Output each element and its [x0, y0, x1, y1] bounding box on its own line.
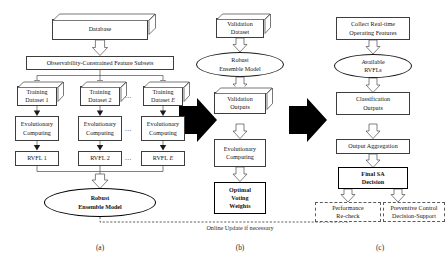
node-robust-ensemble-model-b[interactable]: Robust Ensemble Model — [196, 52, 284, 77]
node-preventive-control-decision-support-label: Preventive Control Decision-Support — [385, 204, 443, 220]
database-box-top — [52, 13, 156, 22]
caption-a: (a) — [70, 243, 130, 252]
node-robust-ensemble-model-a[interactable]: Robust Ensemble Model — [44, 188, 156, 217]
node-performance-re-check[interactable]: Performance Re-check — [315, 202, 381, 222]
node-training-dataset-2-label: Training Dataset 2 — [82, 88, 118, 104]
database-box-side — [148, 13, 157, 42]
validation-dataset-box-top — [216, 13, 271, 21]
node-robust-ensemble-model-a-label: Robust Ensemble Model — [45, 194, 155, 210]
node-validation-outputs-label: Validation Outputs — [216, 95, 264, 111]
training-dataset-1-box-side — [57, 81, 65, 108]
node-available-rvfls[interactable]: Available RVFLs — [334, 54, 412, 78]
arrow-database-to-feature-subsets — [92, 40, 107, 56]
node-training-dataset-2[interactable]: Training Dataset 2 — [80, 86, 120, 106]
node-optimal-voting-weights[interactable]: Optimal Voting Weights — [214, 182, 266, 214]
node-evolutionary-computing-b-label: Evolutionary Computing — [216, 145, 264, 161]
node-feature-subsets-label: Observability-Constrained Feature Subset… — [28, 59, 172, 67]
node-database-label: Database — [54, 25, 146, 33]
node-collect-real-time-operating-features[interactable]: Collect Real-time Operating Features — [336, 17, 410, 40]
arrow-final-to-preventive — [391, 189, 405, 202]
node-available-rvfls-label: Available RVFLs — [335, 58, 411, 74]
ellipsis-rvfl: ... — [125, 154, 132, 162]
node-evolutionary-computing-b[interactable]: Evolutionary Computing — [214, 139, 266, 167]
node-database[interactable]: Database — [52, 19, 148, 40]
training-dataset-2-box-side — [120, 81, 128, 108]
node-rvfl-1[interactable]: RVFL 1 — [15, 151, 59, 166]
arrow-classification-to-aggregation — [366, 124, 380, 139]
node-preventive-control-decision-support[interactable]: Preventive Control Decision-Support — [383, 202, 445, 222]
validation-outputs-box-top — [214, 87, 273, 95]
node-evolutionary-computing-2[interactable]: Evolutionary Computing — [78, 116, 122, 141]
node-rvfl-e[interactable]: RVFL E — [141, 151, 185, 166]
online-update-label: Online Update if necessary — [168, 224, 312, 231]
node-final-sa-decision[interactable]: Final SA Decision — [338, 167, 408, 189]
node-evolutionary-computing-1-label: Evolutionary Computing — [17, 120, 57, 136]
arrow-rvfls-to-classification — [366, 78, 380, 93]
arrow-ensemble-in — [92, 174, 108, 189]
node-evolutionary-computing-2-label: Evolutionary Computing — [80, 120, 120, 136]
node-rvfl-2-label: RVFL 2 — [80, 154, 120, 162]
ellipsis-evo: ... — [125, 125, 132, 133]
node-output-aggregation[interactable]: Output Aggregation — [336, 139, 410, 154]
node-rvfl-1-label: RVFL 1 — [17, 154, 57, 162]
stage-arrow-b-to-c — [289, 98, 327, 142]
caption-b: (b) — [210, 243, 270, 252]
node-training-dataset-1[interactable]: Training Dataset 1 — [17, 86, 57, 106]
node-training-dataset-e[interactable]: Training Dataset E — [143, 86, 183, 106]
validation-outputs-box-side — [266, 87, 274, 116]
node-rvfl-e-label: RVFL E — [143, 154, 183, 162]
bus-feature-subsets-to-datasets — [37, 70, 163, 81]
node-performance-re-check-label: Performance Re-check — [317, 204, 379, 220]
node-validation-dataset[interactable]: Validation Dataset — [216, 18, 264, 38]
arrow-valdataset-to-ensemble — [233, 38, 247, 52]
arrow-final-to-performance — [341, 189, 355, 202]
node-robust-ensemble-model-b-label: Robust Ensemble Model — [197, 56, 283, 72]
node-collect-real-time-operating-features-label: Collect Real-time Operating Features — [338, 20, 408, 36]
node-validation-dataset-label: Validation Dataset — [218, 20, 262, 36]
node-rvfl-2[interactable]: RVFL 2 — [78, 151, 122, 166]
arrow-evo-to-optimal — [233, 167, 247, 182]
node-optimal-voting-weights-label: Optimal Voting Weights — [216, 186, 264, 210]
arrow-collect-to-rvfls — [366, 40, 380, 54]
node-evolutionary-computing-1[interactable]: Evolutionary Computing — [15, 116, 59, 141]
node-output-aggregation-label: Output Aggregation — [338, 142, 408, 150]
arrow-valoutputs-to-evo — [233, 124, 247, 139]
node-training-dataset-e-label: Training Dataset E — [145, 88, 181, 104]
node-classification-outputs-label: Classification Outputs — [338, 95, 408, 111]
validation-dataset-box-side — [264, 13, 272, 40]
node-evolutionary-computing-e[interactable]: Evolutionary Computing — [141, 116, 185, 141]
training-dataset-e-box-side — [183, 81, 191, 108]
arrow-aggregation-to-final — [366, 154, 380, 168]
node-final-sa-decision-label: Final SA Decision — [340, 170, 406, 186]
caption-c: (c) — [350, 243, 410, 252]
bus-rvfl-to-ensemble — [37, 166, 163, 174]
arrowheads-rvfl — [34, 145, 166, 151]
node-feature-subsets[interactable]: Observability-Constrained Feature Subset… — [26, 56, 174, 70]
node-validation-outputs[interactable]: Validation Outputs — [214, 92, 266, 114]
figure-canvas: Database Observability-Constrained Featu… — [0, 0, 447, 263]
node-training-dataset-1-label: Training Dataset 1 — [19, 88, 55, 104]
node-classification-outputs[interactable]: Classification Outputs — [336, 92, 410, 115]
node-evolutionary-computing-e-label: Evolutionary Computing — [143, 120, 183, 136]
